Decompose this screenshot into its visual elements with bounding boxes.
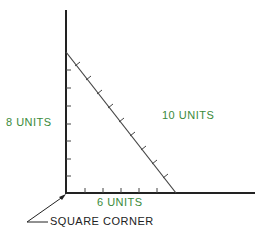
- hypotenuse-ticks: [75, 62, 168, 178]
- hypotenuse-label: 10 UNITS: [162, 109, 214, 121]
- vertical-side-label: 8 UNITS: [6, 116, 52, 128]
- hypotenuse-line: [66, 52, 176, 193]
- horizontal-side-label: 6 UNITS: [97, 196, 143, 208]
- square-corner-label: SQUARE CORNER: [50, 215, 154, 227]
